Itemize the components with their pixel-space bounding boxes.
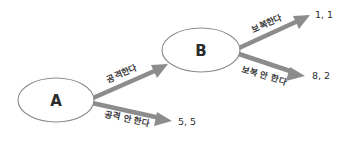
- node-a-label: A: [50, 92, 62, 110]
- diagram-canvas: A B 공격한다 공격 안 한다 보복한다 보복 안 한다 1, 1 8, 2 …: [0, 0, 356, 150]
- node-a[interactable]: A: [18, 78, 94, 122]
- arrowhead-a-no-attack: [154, 112, 172, 126]
- node-b-label: B: [195, 42, 206, 60]
- node-b[interactable]: B: [162, 28, 240, 72]
- payoff-label-retaliate: 1, 1: [315, 9, 333, 20]
- payoff-label-no-retaliate: 8, 2: [312, 70, 330, 81]
- payoff-label-no-attack: 5, 5: [178, 116, 196, 127]
- game-tree-diagram: A B 공격한다 공격 안 한다 보복한다 보복 안 한다 1, 1 8, 2 …: [0, 0, 356, 150]
